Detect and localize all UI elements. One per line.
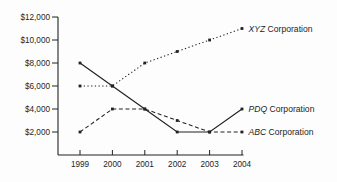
line-chart: $2,000$4,000$6,000$8,000$10,000$12,00019…	[0, 0, 337, 182]
data-point-marker-abc	[111, 108, 114, 111]
series-end-label-abc-corporation: ABC Corporation	[248, 127, 314, 137]
data-point-marker-xyz	[143, 62, 146, 65]
data-point-marker-xyz	[208, 39, 211, 42]
x-tick-label: 2004	[233, 160, 252, 169]
y-tick-label: $8,000	[25, 59, 50, 68]
data-point-marker-abc	[176, 119, 179, 122]
line-chart-figure: $2,000$4,000$6,000$8,000$10,000$12,00019…	[0, 0, 337, 182]
x-tick-label: 2001	[136, 160, 155, 169]
data-point-marker-pdq	[176, 131, 179, 134]
data-point-marker-abc	[79, 131, 82, 134]
data-point-marker-abc	[241, 131, 244, 134]
data-point-marker-abc	[208, 131, 211, 134]
y-tick-label: $10,000	[20, 36, 50, 45]
y-tick-label: $6,000	[25, 82, 50, 91]
y-tick-label: $4,000	[25, 105, 50, 114]
y-tick-label: $12,000	[20, 13, 50, 22]
data-point-marker-pdq	[79, 62, 82, 65]
series-line-pdq-corporation	[80, 63, 242, 132]
x-tick-label: 1999	[71, 160, 90, 169]
data-point-marker-xyz	[176, 50, 179, 53]
data-point-marker-xyz	[79, 85, 82, 88]
series-end-label-xyz-corporation: XYZ Corporation	[248, 24, 313, 34]
data-point-marker-pdq	[111, 85, 114, 88]
series-line-xyz-corporation	[80, 29, 242, 87]
series-end-label-pdq-corporation: PDQ Corporation	[249, 104, 315, 114]
y-tick-label: $2,000	[25, 128, 50, 137]
x-tick-label: 2000	[103, 160, 122, 169]
x-tick-label: 2003	[200, 160, 219, 169]
data-point-marker-xyz	[241, 27, 244, 30]
data-point-marker-abc	[143, 108, 146, 111]
x-tick-label: 2002	[168, 160, 187, 169]
data-point-marker-pdq	[241, 108, 244, 111]
